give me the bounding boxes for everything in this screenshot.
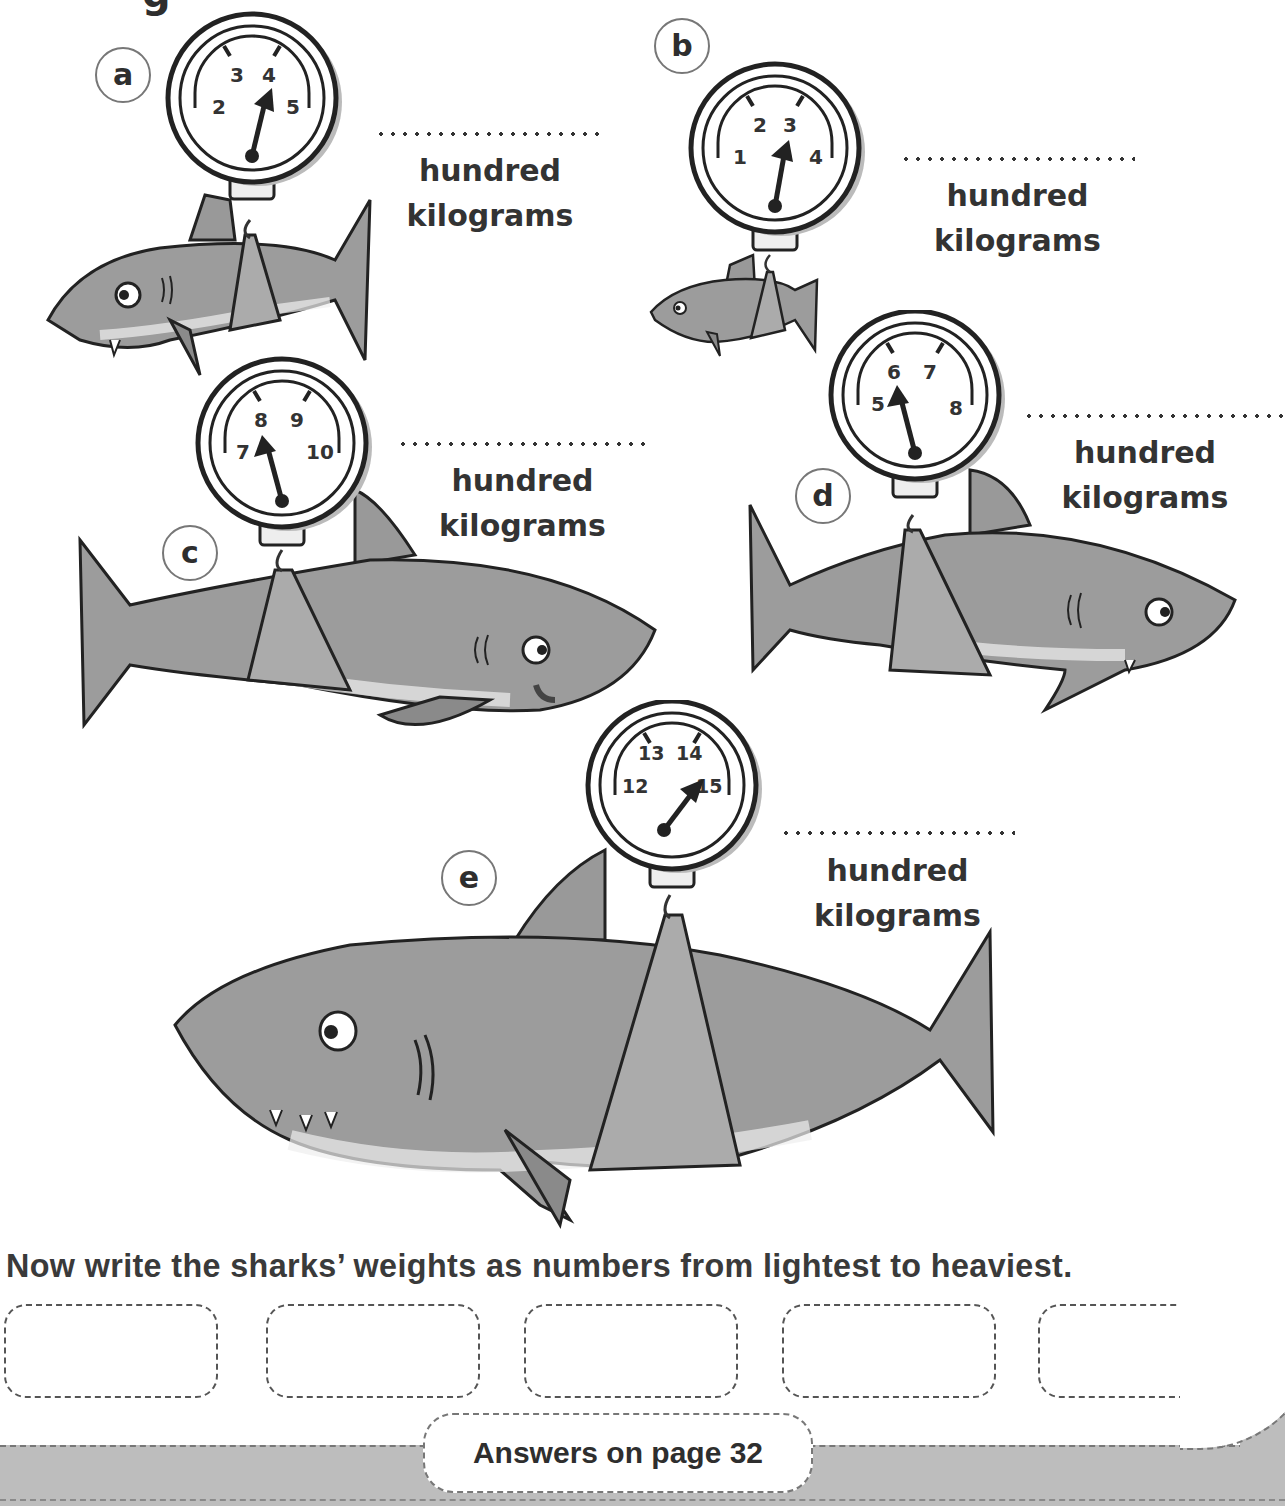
shark-on-scale-d-illustration: 5 6 7 8 — [745, 310, 1245, 740]
scale-dial-e: 12 13 14 15 — [588, 701, 762, 887]
svg-text:4: 4 — [262, 63, 276, 87]
svg-text:3: 3 — [783, 113, 797, 137]
svg-text:7: 7 — [236, 440, 250, 464]
scale-dial-d: 5 6 7 8 — [831, 311, 1005, 497]
svg-text:13: 13 — [638, 742, 664, 764]
ordering-box-3[interactable] — [524, 1304, 738, 1398]
ordering-instruction: Now write the sharks’ weights as numbers… — [6, 1246, 1073, 1285]
question-a: a 2 — [0, 0, 640, 380]
answers-note: Answers on page 32 — [423, 1413, 813, 1493]
svg-text:7: 7 — [923, 360, 937, 384]
scale-dial-b: 1 2 3 4 — [691, 64, 865, 250]
svg-text:6: 6 — [887, 360, 901, 384]
ordering-box-4[interactable] — [782, 1304, 996, 1398]
svg-text:12: 12 — [622, 775, 648, 797]
svg-text:4: 4 — [809, 145, 823, 169]
question-d: d 5 6 7 8 — [740, 310, 1285, 740]
unit-label-a: hundred kilograms — [385, 148, 595, 238]
svg-text:2: 2 — [753, 113, 767, 137]
answer-line-b[interactable] — [900, 157, 1135, 161]
question-e: e 12 13 14 — [160, 700, 1030, 1240]
unit-label-d: hundred kilograms — [1040, 430, 1250, 520]
ordering-box-2[interactable] — [266, 1304, 480, 1398]
svg-text:3: 3 — [230, 63, 244, 87]
shark-on-scale-e-illustration: 12 13 14 15 — [160, 700, 1030, 1240]
answer-line-c[interactable] — [397, 442, 647, 446]
page-corner-border — [1180, 1290, 1285, 1450]
scale-label: 2 — [212, 95, 226, 119]
svg-text:10: 10 — [306, 440, 334, 464]
question-c: c 7 8 9 — [0, 350, 680, 750]
svg-text:8: 8 — [949, 396, 963, 420]
ordering-box-1[interactable] — [4, 1304, 218, 1398]
answer-line-a[interactable] — [375, 132, 605, 136]
unit-label-c: hundred kilograms — [415, 458, 630, 548]
scale-dial-a: 2 3 4 5 — [168, 14, 342, 199]
svg-text:1: 1 — [733, 145, 747, 169]
worksheet-page: g a — [0, 0, 1285, 1506]
unit-label-b: hundred kilograms — [910, 173, 1125, 263]
shark-a-icon — [48, 195, 370, 375]
shark-on-scale-c-illustration: 7 8 9 10 — [70, 355, 670, 750]
shark-on-scale-a-illustration: 2 3 4 5 — [40, 10, 390, 385]
svg-text:5: 5 — [286, 95, 300, 119]
svg-text:14: 14 — [676, 742, 702, 764]
svg-text:5: 5 — [871, 392, 885, 416]
scale-dial-c: 7 8 9 10 — [198, 359, 372, 545]
answer-line-e[interactable] — [780, 831, 1015, 835]
svg-text:9: 9 — [290, 408, 304, 432]
unit-label-e: hundred kilograms — [790, 848, 1005, 938]
svg-text:8: 8 — [254, 408, 268, 432]
answer-line-d[interactable] — [1023, 414, 1285, 418]
footer-bottom-border — [0, 1499, 1285, 1501]
